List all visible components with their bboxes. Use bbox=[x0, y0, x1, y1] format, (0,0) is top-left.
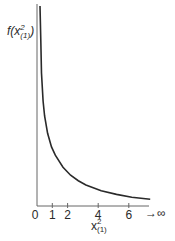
x-tick-label: 6 bbox=[125, 209, 132, 221]
x-label-subscript: (1) bbox=[97, 226, 107, 234]
y-axis-label: f(x2(1)) bbox=[7, 24, 34, 40]
density-curve bbox=[40, 6, 150, 199]
x-tick-label: 0 bbox=[32, 209, 39, 221]
x-axis-label: x2(1) bbox=[91, 218, 107, 234]
y-label-subscript: (1) bbox=[20, 32, 30, 40]
y-label-text: f(x bbox=[7, 24, 20, 38]
y-label-close: ) bbox=[30, 24, 34, 38]
infinity-arrow-annotation: →∞ bbox=[145, 207, 166, 219]
x-tick-label: 1 bbox=[49, 209, 56, 221]
x-tick-label: 2 bbox=[64, 209, 71, 221]
